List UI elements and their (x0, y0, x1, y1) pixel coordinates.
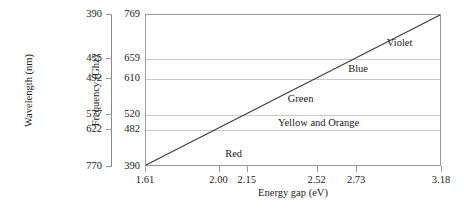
frequency-tick-label: 482 (124, 124, 140, 135)
energy-tick-mark (247, 166, 248, 172)
color-region-label-green: Green (288, 94, 314, 105)
wavelength-axis-title-text: Wavelength (nm) (23, 54, 34, 127)
plot-area: RedYellow and OrangeGreenBlueViolet (145, 14, 441, 166)
wavelength-tick-label: 390 (86, 9, 102, 20)
energy-tick-label: 1.61 (136, 175, 154, 186)
frequency-tick-label: 390 (124, 161, 140, 172)
frequency-tick-label: 659 (124, 53, 140, 64)
color-region-label-red: Red (225, 149, 242, 160)
frequency-axis: 390482520610659769 (104, 14, 145, 166)
color-region-label-blue: Blue (348, 64, 368, 75)
wavelength-tick-label: 455 (86, 53, 102, 64)
energy-tick-label: 3.18 (432, 175, 450, 186)
energy-tick-label: 2.52 (307, 175, 325, 186)
frequency-tick-label: 610 (124, 73, 140, 84)
frequency-tick-label: 769 (124, 9, 140, 20)
frequency-tick-label: 520 (124, 109, 140, 120)
energy-tick-mark (317, 166, 318, 172)
wavelength-tick-label: 577 (86, 109, 102, 120)
wavelength-tick-label: 770 (86, 161, 102, 172)
energy-tick-mark (219, 166, 220, 172)
energy-axis-title: Energy gap (eV) (145, 187, 441, 198)
chart-figure: Wavelength (nm) Frequency (Ghz) 39045549… (0, 0, 464, 214)
energy-tick-mark (356, 166, 357, 172)
energy-axis: 1.612.002.152.522.733.18 (145, 166, 441, 188)
wavelength-axis: 390455492577622770 (45, 14, 112, 166)
energy-tick-label: 2.00 (209, 175, 227, 186)
energy-tick-mark (441, 166, 442, 172)
wavelength-tick-label: 622 (86, 124, 102, 135)
wavelength-tick-mark (106, 166, 112, 167)
energy-tick-label: 2.15 (238, 175, 256, 186)
color-region-label-yellow-and-orange: Yellow and Orange (278, 118, 359, 129)
color-region-label-violet: Violet (387, 37, 413, 48)
wavelength-tick-label: 492 (86, 73, 102, 84)
energy-tick-label: 2.73 (347, 175, 365, 186)
energy-tick-mark (145, 166, 146, 172)
